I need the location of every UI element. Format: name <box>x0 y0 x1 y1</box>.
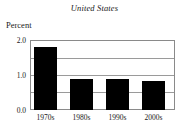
y-tick-label-0: 0.0 <box>17 106 26 115</box>
bar-2000s[interactable] <box>142 81 165 110</box>
chart-figure: United States Percent 2.0 1.0 0.0 1970s … <box>0 0 189 136</box>
x-axis-tick-labels: 1970s 1980s 1990s 2000s <box>30 113 175 127</box>
y-axis-tick-labels: 2.0 1.0 0.0 <box>0 40 29 110</box>
bar-1980s[interactable] <box>70 79 93 110</box>
y-axis-label: Percent <box>6 20 32 30</box>
x-tick-label-1980s: 1980s <box>73 113 91 122</box>
y-tick-label-1: 1.0 <box>17 71 26 80</box>
bar-1970s[interactable] <box>34 47 57 110</box>
bar-1990s[interactable] <box>106 79 129 110</box>
x-tick-label-2000s: 2000s <box>145 113 163 122</box>
x-tick-label-1970s: 1970s <box>37 113 55 122</box>
y-tick-label-2: 2.0 <box>17 36 26 45</box>
x-tick-label-1990s: 1990s <box>109 113 127 122</box>
bars-layer <box>30 40 175 110</box>
chart-title: United States <box>0 3 189 13</box>
